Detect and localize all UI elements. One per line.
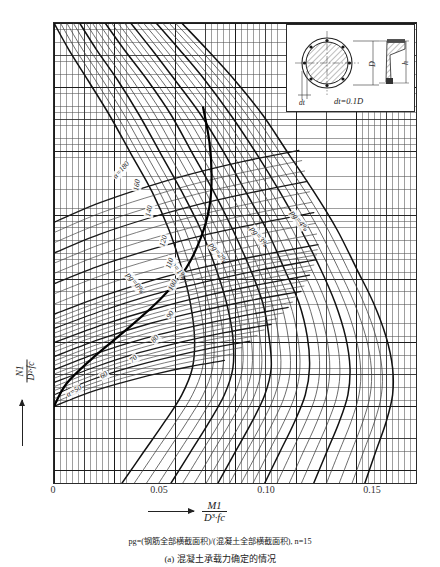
curve-label: pg=4%: [288, 208, 311, 234]
x-axis-arrow: [148, 511, 194, 512]
x-tick: 0.15: [363, 484, 381, 495]
inset-dim-dt: dt: [299, 98, 306, 107]
curve-label: 80: [149, 333, 161, 345]
y-axis-title: N1 D²·fc: [14, 352, 54, 402]
y-axis-numerator: N1: [16, 360, 26, 383]
x-axis-title: M1 D³·fc: [148, 500, 227, 523]
x-axis-numerator: M1: [202, 500, 227, 511]
curve-label: pg=0%: [124, 270, 147, 296]
curve-label: pg=2%: [207, 240, 230, 266]
cross-section-inset: D dt h dt=0.1D: [286, 24, 415, 112]
inset-equation: dt=0.1D: [334, 96, 364, 106]
curve-label: 70: [128, 353, 140, 365]
y-axis-denominator: D²·fc: [26, 360, 37, 383]
x-tick: 0.10: [257, 484, 275, 495]
curve-label: 60: [98, 369, 109, 381]
x-tick: 0: [51, 484, 56, 495]
inset-dim-D: D: [368, 61, 377, 68]
curve-label: 90: [164, 309, 176, 320]
cover-dimension: [298, 71, 311, 99]
curve-label: pg=3%: [248, 224, 271, 250]
inset-dim-h: h: [401, 61, 410, 65]
x-tick: 0.05: [150, 484, 168, 495]
figure-caption: (a) 混凝土承载力确定的情况: [0, 552, 440, 565]
y-axis-arrow: [22, 400, 23, 446]
x-axis-denominator: D³·fc: [202, 511, 227, 523]
figure-note: pg=(钢筋全部横截面积)/(混凝土全部横截面积), n=15: [0, 534, 440, 546]
figure-root: 1.0 0.9 0.8 0.7 0.6 0.5 0.4 0.3 0.2 0.1 …: [0, 0, 440, 567]
column-section-icon: [295, 31, 359, 95]
